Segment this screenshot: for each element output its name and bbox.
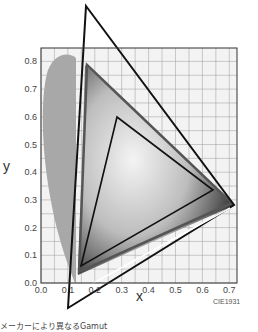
y-axis-ticks: 0.00.10.20.30.40.50.60.70.8 [24,56,37,288]
x-tick-label: 0.1 [62,285,75,295]
y-tick-label: 0.6 [24,112,37,122]
x-tick-label: 0.6 [196,285,209,295]
cie-chart: 0.00.10.20.30.40.50.60.7 0.00.10.20.30.4… [0,0,258,332]
y-tick-label: 0.1 [24,250,37,260]
x-tick-label: 0.5 [169,285,182,295]
x-tick-label: 0.7 [223,285,236,295]
diagram-name: CIE1931 [213,298,240,305]
caption: メーカーにより異なるGamut [0,320,107,331]
y-tick-label: 0.7 [24,84,37,94]
y-tick-label: 0.3 [24,195,37,205]
x-tick-label: 0.3 [115,285,128,295]
y-axis-label: y [3,158,10,174]
x-tick-label: 0.2 [89,285,102,295]
y-tick-label: 0.5 [24,140,37,150]
y-tick-label: 0.2 [24,223,37,233]
y-tick-label: 0.0 [24,278,37,288]
x-axis-label: x [136,288,143,304]
y-tick-label: 0.4 [24,167,37,177]
y-tick-label: 0.8 [24,56,37,66]
x-tick-label: 0.4 [142,285,155,295]
